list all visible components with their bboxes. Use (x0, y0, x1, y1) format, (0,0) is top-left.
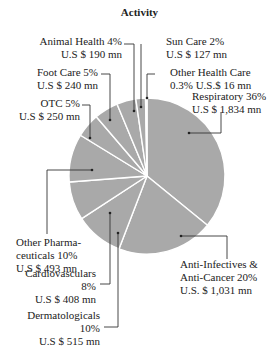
label-otc-line1: OTC 5% (19, 97, 80, 110)
label-cardio-line2: 8% (25, 280, 96, 293)
label-anti-line1: Anti-Infectives & (180, 258, 258, 271)
label-other-health-care: Other Health Care 0.3% U.S.$ 16 mn (170, 66, 251, 92)
label-derm-line2: 10% (27, 322, 100, 335)
label-foot-line2: U.S $ 240 mn (37, 79, 98, 92)
label-foot-care: Foot Care 5% U.S $ 240 mn (37, 66, 98, 92)
label-respiratory: Respiratory 36% U.S $ 1,834 mn (192, 90, 266, 116)
pie-slices (69, 98, 225, 254)
label-derm-line1: Dermatologicals (27, 309, 100, 322)
label-anti-line3: U.S. $ 1,031 mn (180, 284, 258, 297)
label-foot-line1: Foot Care 5% (37, 66, 98, 79)
label-sun-line2: U.S $ 127 mn (166, 48, 227, 61)
label-otherpharma-line1: Other Pharma- (16, 236, 81, 249)
label-animal-health: Animal Health 4% U.S $ 190 mn (40, 35, 122, 61)
label-other-pharmaceuticals: Other Pharma- ceuticals 10% U.S $ 493 mn (16, 236, 81, 275)
label-derm-line3: U.S $ 515 mn (27, 335, 100, 348)
label-sun-line1: Sun Care 2% (166, 35, 227, 48)
label-otc-line2: U.S $ 250 mn (19, 110, 80, 123)
label-ohc-line2: 0.3% U.S.$ 16 mn (170, 79, 251, 92)
label-otc: OTC 5% U.S $ 250 mn (19, 97, 80, 123)
label-dermatologicals: Dermatologicals 10% U.S $ 515 mn (27, 309, 100, 348)
label-animal-line2: U.S $ 190 mn (40, 48, 122, 61)
label-cardio-line3: U.S $ 408 mn (25, 293, 96, 306)
label-anti-line2: Anti-Cancer 20% (180, 271, 258, 284)
label-animal-line1: Animal Health 4% (40, 35, 122, 48)
label-ohc-line1: Other Health Care (170, 66, 251, 79)
label-otherpharma-line2: ceuticals 10% (16, 249, 81, 262)
label-otherpharma-line3: U.S $ 493 mn (16, 262, 81, 275)
label-anti-infectives: Anti-Infectives & Anti-Cancer 20% U.S. $… (180, 258, 258, 297)
label-respiratory-line2: U.S $ 1,834 mn (192, 103, 266, 116)
label-sun-care: Sun Care 2% U.S $ 127 mn (166, 35, 227, 61)
